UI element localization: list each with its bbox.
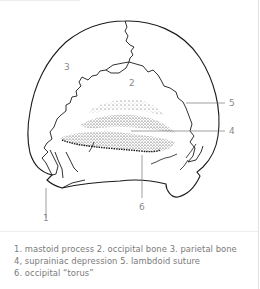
figure-caption: 1. mastoid process 2. occipital bone 3. … — [14, 243, 254, 279]
label-6: 6 — [139, 202, 145, 212]
caption-line: 6. occipital “torus” — [14, 267, 254, 279]
caption-line: 1. mastoid process 2. occipital bone 3. … — [14, 243, 254, 255]
inca-ossicle — [106, 62, 129, 73]
label-1: 1 — [43, 213, 49, 223]
label-2: 2 — [129, 78, 135, 88]
label-5: 5 — [229, 98, 235, 108]
label-3: 3 — [64, 62, 70, 72]
suprainiac-band-upper — [88, 100, 165, 117]
caption-line: 4, suprainiac depression 5. lambdoid sut… — [14, 255, 254, 267]
caption-divider — [0, 231, 258, 232]
label-4: 4 — [229, 126, 235, 136]
mastoid-contour-left — [50, 150, 85, 188]
skull-figure: 3 2 5 4 6 1 — [0, 0, 260, 230]
suprainiac-depression — [80, 115, 175, 133]
sagittal-suture — [125, 21, 134, 62]
